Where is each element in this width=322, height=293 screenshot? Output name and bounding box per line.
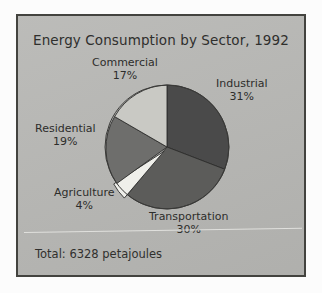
pie-label-residential-percent: 19% [35,135,96,148]
chart-panel: Energy Consumption by Sector, 1992 Indus… [16,14,306,277]
pie-label-industrial-name: Industrial [216,77,268,90]
pie-label-commercial-name: Commercial [92,56,158,69]
pie-label-residential-name: Residential [35,122,96,135]
pie-label-residential: Residential 19% [35,122,96,148]
pie-label-industrial-percent: 31% [216,90,268,103]
pie-label-transportation: Transportation 30% [149,210,228,236]
pie-label-commercial: Commercial 17% [92,56,158,82]
pie-label-industrial: Industrial 31% [216,77,268,103]
pie-label-agriculture-percent: 4% [54,199,115,212]
pie-label-agriculture-name: Agriculture [54,186,115,199]
total-label: Total: 6328 petajoules [35,247,162,261]
pie-label-commercial-percent: 17% [92,69,158,82]
pie-label-transportation-name: Transportation [149,210,228,223]
chart-figure: Energy Consumption by Sector, 1992 Indus… [0,0,322,293]
pie-label-agriculture: Agriculture 4% [54,186,115,212]
